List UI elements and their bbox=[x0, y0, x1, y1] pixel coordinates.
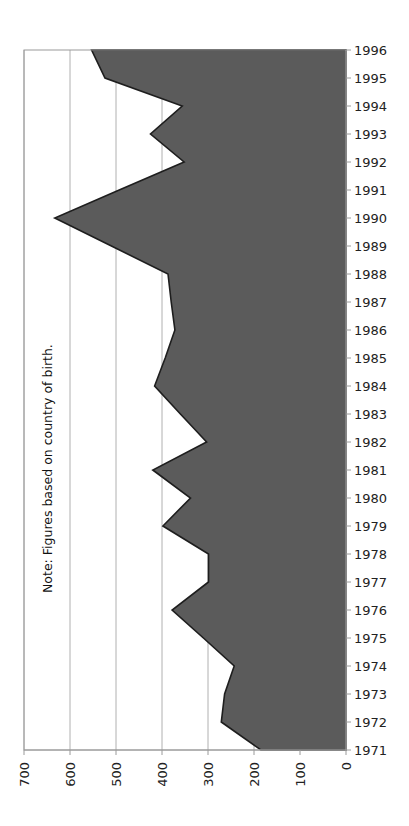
value-label: 400 bbox=[155, 762, 170, 787]
year-label: 1986 bbox=[354, 323, 387, 338]
year-label: 1988 bbox=[354, 267, 387, 282]
year-label: 1976 bbox=[354, 603, 387, 618]
value-label: 200 bbox=[247, 762, 262, 787]
year-label: 1985 bbox=[354, 351, 387, 366]
value-label: 500 bbox=[109, 762, 124, 787]
year-label: 1984 bbox=[354, 379, 387, 394]
year-label: 1973 bbox=[354, 687, 387, 702]
year-label: 1971 bbox=[354, 743, 387, 758]
year-label: 1974 bbox=[354, 659, 387, 674]
area-chart: 1971197219731974197519761977197819791980… bbox=[0, 0, 409, 826]
year-axis: 1971197219731974197519761977197819791980… bbox=[346, 43, 387, 758]
value-label: 300 bbox=[201, 762, 216, 787]
year-label: 1992 bbox=[354, 155, 387, 170]
year-label: 1995 bbox=[354, 71, 387, 86]
value-axis: 7006005004003002001000 bbox=[17, 750, 354, 787]
value-label: 600 bbox=[63, 762, 78, 787]
value-label: 100 bbox=[293, 762, 308, 787]
year-label: 1972 bbox=[354, 715, 387, 730]
value-label: 700 bbox=[17, 762, 32, 787]
year-label: 1996 bbox=[354, 43, 387, 58]
year-label: 1978 bbox=[354, 547, 387, 562]
data-area bbox=[55, 50, 346, 750]
chart-note: Note: Figures based on country of birth. bbox=[40, 344, 55, 593]
year-label: 1977 bbox=[354, 575, 387, 590]
value-label: 0 bbox=[339, 762, 354, 770]
year-label: 1981 bbox=[354, 463, 387, 478]
year-label: 1983 bbox=[354, 407, 387, 422]
year-label: 1987 bbox=[354, 295, 387, 310]
year-label: 1991 bbox=[354, 183, 387, 198]
year-label: 1975 bbox=[354, 631, 387, 646]
year-label: 1994 bbox=[354, 99, 387, 114]
year-label: 1979 bbox=[354, 519, 387, 534]
year-label: 1989 bbox=[354, 239, 387, 254]
year-label: 1990 bbox=[354, 211, 387, 226]
year-label: 1980 bbox=[354, 491, 387, 506]
year-label: 1982 bbox=[354, 435, 387, 450]
year-label: 1993 bbox=[354, 127, 387, 142]
